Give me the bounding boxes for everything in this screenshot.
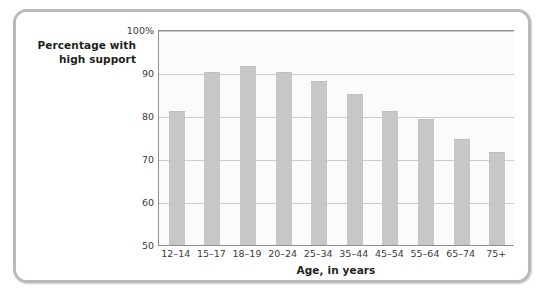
bar-15-17	[204, 72, 220, 245]
y-tick-label-50: 50	[110, 240, 154, 251]
x-tick-label-5: 35–44	[339, 248, 368, 259]
bar-35-44	[347, 94, 363, 246]
bar-75plus	[489, 152, 505, 245]
figure-card: Percentage with high support 50607080901…	[13, 9, 531, 283]
bar-18-19	[240, 66, 256, 245]
y-tick-label-90: 90	[110, 68, 154, 79]
x-tick-label-6: 45–54	[375, 248, 404, 259]
x-tick-label-0: 12–14	[161, 248, 190, 259]
y-tick-label-100: 100%	[110, 25, 154, 36]
bar-55-64	[418, 119, 434, 245]
x-tick-label-1: 15–17	[197, 248, 226, 259]
y-tick-label-60: 60	[110, 197, 154, 208]
x-tick-label-2: 18–19	[233, 248, 262, 259]
bar-45-54	[382, 111, 398, 245]
y-tick-label-80: 80	[110, 111, 154, 122]
bars-layer	[159, 31, 514, 245]
y-axis-tick-labels: 5060708090100%	[110, 30, 154, 245]
x-axis-tick-labels: 12–1415–1718–1920–2425–3435–4445–5455–64…	[158, 248, 514, 264]
bar-20-24	[276, 72, 292, 245]
bar-25-34	[311, 81, 327, 245]
x-tick-label-4: 25–34	[304, 248, 333, 259]
y-tick-label-70: 70	[110, 154, 154, 165]
plot-area	[158, 30, 514, 245]
bar-65-74	[454, 139, 470, 245]
x-axis-line	[158, 245, 514, 247]
x-tick-label-8: 65–74	[446, 248, 475, 259]
x-tick-label-7: 55–64	[411, 248, 440, 259]
x-axis-title: Age, in years	[158, 264, 514, 276]
bar-12-14	[169, 111, 185, 245]
figure-inner: Percentage with high support 50607080901…	[16, 12, 528, 280]
x-tick-label-9: 75+	[486, 248, 506, 259]
x-tick-label-3: 20–24	[268, 248, 297, 259]
